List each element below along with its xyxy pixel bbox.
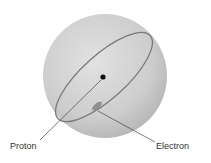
atom-diagram (0, 0, 211, 163)
proton-dot (100, 74, 105, 79)
electron-label: Electron (156, 141, 189, 151)
proton-label: Proton (10, 141, 37, 151)
